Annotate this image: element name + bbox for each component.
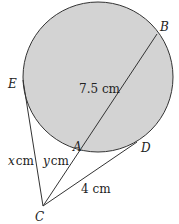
length-label-CA: ycm xyxy=(42,154,70,168)
point-label-C: C xyxy=(35,210,44,224)
point-label-D: D xyxy=(140,141,151,155)
length-label-AB: 7.5 cm xyxy=(79,82,121,96)
point-label-B: B xyxy=(159,20,169,34)
circle-tangent-secant-diagram: B E A D C 7.5 cm xcm ycm 4 cm xyxy=(0,0,179,224)
length-label-CE: xcm xyxy=(8,154,35,168)
circle xyxy=(23,2,173,152)
length-label-CD: 4 cm xyxy=(81,182,111,196)
point-label-E: E xyxy=(7,77,17,91)
point-label-A: A xyxy=(72,140,82,154)
